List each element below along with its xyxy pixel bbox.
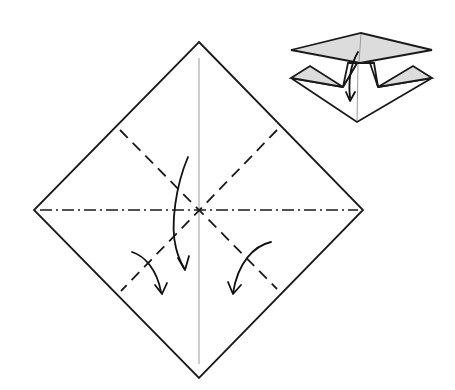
- collapsed-square-base-preview: [291, 33, 432, 122]
- preview-top-gray-layer: [291, 33, 432, 63]
- origami-diagram: [0, 0, 455, 390]
